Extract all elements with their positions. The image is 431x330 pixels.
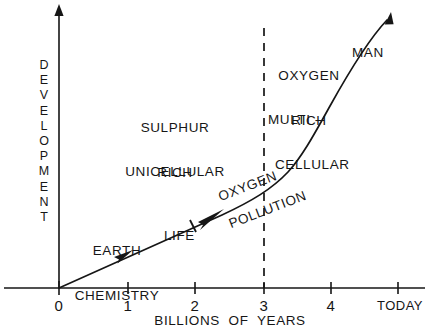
y-axis-letter: P	[40, 149, 48, 164]
x-tick-label-0: 0	[55, 297, 64, 314]
y-axis-letter: O	[39, 134, 49, 149]
annotation-life: LIFE	[164, 198, 195, 258]
x-tick-label-2: 2	[191, 297, 200, 314]
y-axis-letter: E	[40, 104, 48, 119]
oxygen-label: OXYGEN	[278, 68, 339, 83]
y-axis-letter: V	[40, 88, 48, 103]
y-axis-letter: M	[39, 164, 49, 179]
x-tick-label-3: 3	[260, 297, 269, 314]
earth-label: EARTH	[75, 243, 160, 258]
x-tick-label-today: TODAY	[377, 298, 423, 313]
y-axis-letter: E	[40, 180, 48, 195]
life-arrowhead-icon	[198, 209, 224, 230]
annotation-unicellular: UNICELLULAR	[125, 134, 225, 194]
life-label: LIFE	[164, 228, 195, 243]
y-axis-letter: E	[40, 73, 48, 88]
annotation-man: MAN	[352, 15, 384, 75]
x-tick-label-1: 1	[124, 297, 133, 314]
x-axis-title: BILLIONS OF YEARS	[154, 313, 305, 328]
y-axis-letter: L	[41, 119, 48, 134]
y-axis-title: D E V E L O P M E N T	[36, 58, 52, 225]
unicellular-label: UNICELLULAR	[125, 164, 225, 179]
y-axis-arrowhead-icon	[54, 4, 63, 16]
x-tick-label-4: 4	[327, 297, 336, 314]
sulphur-label: SULPHUR	[141, 120, 210, 135]
multi-label: MULTI -	[268, 112, 350, 127]
man-arrowhead-icon	[385, 12, 394, 25]
y-axis-letter: T	[40, 210, 48, 225]
y-axis-letter: N	[39, 195, 48, 210]
chemistry-label: CHEMISTRY	[75, 288, 160, 303]
man-label: MAN	[352, 45, 384, 60]
y-axis-letter: D	[39, 58, 48, 73]
annotation-earth-chemistry: EARTH CHEMISTRY	[75, 213, 160, 318]
